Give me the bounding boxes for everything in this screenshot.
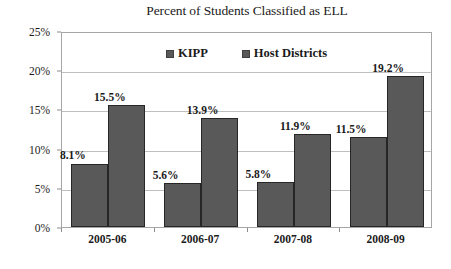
x-tick-label: 2007-08 (274, 233, 312, 245)
y-tick-mark (57, 188, 61, 189)
legend-item-host-districts: Host Districts (242, 46, 327, 61)
bar (294, 134, 331, 227)
bar-value-label: 11.5% (336, 123, 367, 135)
y-tick-label: 25% (29, 26, 50, 38)
bar (350, 137, 387, 227)
bar (201, 118, 238, 227)
x-tick-label: 2006-07 (181, 233, 219, 245)
plot-area (61, 32, 432, 228)
bar (71, 164, 108, 228)
legend-swatch-icon (242, 50, 250, 58)
bar-chart: Percent of Students Classified as ELL 0%… (0, 0, 451, 269)
y-tick-label: 20% (29, 65, 50, 77)
chart-title: Percent of Students Classified as ELL (61, 3, 433, 19)
bar-value-label: 11.9% (280, 120, 311, 132)
y-tick-label: 5% (35, 183, 50, 195)
y-tick-mark (57, 228, 61, 229)
bar (164, 183, 201, 227)
y-axis: 0%5%10%15%20%25% (0, 32, 55, 228)
bar-value-label: 19.2% (372, 62, 404, 74)
chart-legend: KIPP Host Districts (61, 46, 432, 61)
legend-swatch-icon (166, 50, 174, 58)
bar-value-label: 5.6% (153, 169, 179, 181)
x-tick-mark (339, 228, 340, 232)
y-tick-mark (57, 32, 61, 33)
x-tick-label: 2008-09 (366, 233, 404, 245)
bar-value-label: 13.9% (187, 104, 219, 116)
legend-item-kipp: KIPP (166, 46, 208, 61)
y-tick-mark (57, 71, 61, 72)
y-tick-label: 10% (29, 144, 50, 156)
y-tick-mark (57, 149, 61, 150)
bar (257, 182, 294, 227)
bar-value-label: 15.5% (94, 91, 126, 103)
bar-value-label: 5.8% (245, 168, 271, 180)
y-tick-label: 0% (35, 222, 50, 234)
legend-label-host-districts: Host Districts (254, 46, 327, 61)
x-tick-mark (247, 228, 248, 232)
x-tick-mark (154, 228, 155, 232)
y-tick-mark (57, 110, 61, 111)
bar (387, 76, 424, 227)
legend-label-kipp: KIPP (178, 46, 208, 61)
x-tick-mark (61, 228, 62, 232)
y-tick-label: 15% (29, 104, 50, 116)
bar (108, 105, 145, 227)
bar-value-label: 8.1% (60, 149, 86, 161)
x-tick-label: 2005-06 (88, 233, 126, 245)
x-axis: 2005-062006-072007-082008-09 (61, 233, 432, 253)
